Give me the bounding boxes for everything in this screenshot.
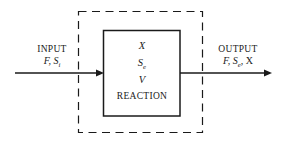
output-variables: F, Se, X: [198, 55, 278, 69]
output-label-group: OUTPUT F, Se, X: [198, 44, 278, 68]
diagram-vector-layer: [0, 0, 281, 146]
input-variables-subscript: i: [58, 61, 60, 68]
reactor-variable-x: X: [103, 40, 181, 51]
input-variables-base: F, S: [44, 55, 59, 66]
reactor-label-reaction: REACTION: [103, 91, 181, 101]
input-variables: F, Si: [14, 55, 90, 69]
reactor-variable-se-subscript: e: [143, 63, 146, 70]
input-flow-arrow: [15, 70, 104, 77]
output-flow-arrow: [180, 70, 272, 77]
input-heading: INPUT: [14, 44, 90, 55]
process-flow-diagram: INPUT F, Si OUTPUT F, Se, X X Se V REACT…: [0, 0, 281, 146]
reactor-variable-v: V: [103, 74, 181, 85]
output-variables-suffix: , X: [241, 55, 253, 66]
output-variables-prefix: F, S: [223, 55, 238, 66]
input-label-group: INPUT F, Si: [14, 44, 90, 68]
reactor-variable-se: Se: [103, 57, 181, 70]
output-heading: OUTPUT: [198, 44, 278, 55]
